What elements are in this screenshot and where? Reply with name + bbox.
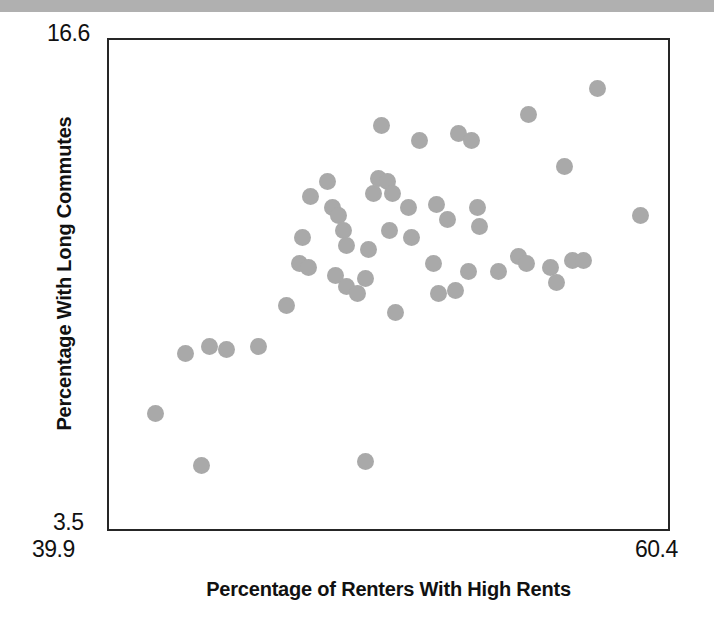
data-point xyxy=(349,285,366,302)
data-point xyxy=(218,341,235,358)
data-point xyxy=(381,222,398,239)
data-point xyxy=(490,263,507,280)
x-axis-title: Percentage of Renters With High Rents xyxy=(107,578,670,601)
data-point xyxy=(294,229,311,246)
data-point xyxy=(384,185,401,202)
data-point xyxy=(556,158,573,175)
data-point xyxy=(439,211,456,228)
data-point xyxy=(548,274,565,291)
data-point xyxy=(360,241,377,258)
plot-frame xyxy=(107,38,670,531)
data-point xyxy=(373,117,390,134)
data-point xyxy=(147,405,164,422)
data-point xyxy=(425,255,442,272)
data-point xyxy=(411,132,428,149)
data-point xyxy=(357,270,374,287)
data-point xyxy=(177,345,194,362)
scatter-plot-figure: 16.6 3.5 39.9 60.4 Percentage of Renters… xyxy=(0,0,714,626)
data-point xyxy=(520,106,537,123)
data-point xyxy=(463,132,480,149)
data-point xyxy=(201,338,218,355)
data-point xyxy=(400,199,417,216)
data-point xyxy=(471,218,488,235)
data-point xyxy=(387,304,404,321)
data-point xyxy=(430,285,447,302)
data-point xyxy=(469,199,486,216)
y-axis-title: Percentage With Long Commutes xyxy=(53,0,76,554)
data-point xyxy=(278,297,295,314)
data-point xyxy=(300,259,317,276)
data-point xyxy=(428,196,445,213)
data-points-layer xyxy=(109,40,668,529)
data-point xyxy=(302,188,319,205)
data-point xyxy=(250,338,267,355)
data-point xyxy=(518,255,535,272)
data-point xyxy=(575,252,592,269)
data-point xyxy=(589,80,606,97)
data-point xyxy=(460,263,477,280)
data-point xyxy=(319,173,336,190)
data-point xyxy=(357,453,374,470)
data-point xyxy=(632,207,649,224)
data-point xyxy=(403,229,420,246)
data-point xyxy=(447,282,464,299)
data-point xyxy=(365,185,382,202)
top-decorative-band xyxy=(0,0,714,12)
x-axis-max-tick-label: 60.4 xyxy=(635,536,678,563)
data-point xyxy=(338,237,355,254)
data-point xyxy=(193,457,210,474)
